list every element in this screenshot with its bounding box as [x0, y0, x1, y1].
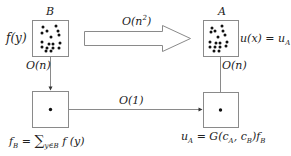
bottom-arrowhead-icon	[199, 108, 203, 112]
u-of-x-label: u(x) = uA	[240, 33, 290, 49]
box-a-label: A	[218, 6, 226, 18]
aggregate-formula-a: uA = G(cA, cB)fB	[181, 131, 266, 147]
aggregate-formula-b: fB = ∑y∈B f (y)	[9, 134, 85, 152]
aggregate-point-b	[49, 108, 52, 111]
right-vertical-complexity-label: O(n)	[222, 60, 247, 72]
left-arrowhead-icon	[49, 87, 53, 91]
big-arrow-complexity-label: O(n2)	[122, 12, 151, 28]
f-of-y-label: f(y)	[6, 32, 27, 44]
left-vertical-complexity-label: O(n)	[26, 60, 51, 72]
box-b-label: B	[46, 6, 54, 18]
big-hollow-arrow	[85, 26, 191, 52]
aggregate-point-a	[219, 108, 222, 111]
bottom-arrow-complexity-label: O(1)	[119, 95, 144, 107]
